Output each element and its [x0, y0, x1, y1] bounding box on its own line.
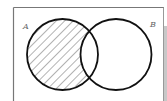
set-a-label: A [22, 22, 29, 31]
venn-diagram: A B [0, 0, 167, 101]
set-b-label: B [149, 20, 156, 29]
